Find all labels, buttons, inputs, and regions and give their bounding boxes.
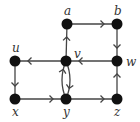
node-a	[62, 19, 73, 30]
edge-v-to-y	[66, 61, 70, 99]
node-label-w: w	[126, 55, 137, 69]
node-w	[112, 56, 123, 67]
edge-v-to-a	[66, 24, 67, 61]
node-label-y: y	[62, 105, 70, 119]
node-label-u: u	[12, 41, 20, 55]
node-label-b: b	[114, 4, 122, 18]
node-u	[10, 56, 21, 67]
node-y	[61, 94, 72, 105]
edge-y-to-v	[62, 61, 66, 99]
node-label-a: a	[64, 4, 71, 18]
directed-graph: abuvwxyz	[0, 0, 140, 122]
node-label-v: v	[74, 47, 81, 61]
node-x	[10, 94, 21, 105]
node-label-z: z	[113, 105, 121, 119]
node-z	[112, 94, 123, 105]
node-label-x: x	[12, 105, 19, 119]
node-b	[112, 19, 123, 30]
node-v	[61, 56, 72, 67]
